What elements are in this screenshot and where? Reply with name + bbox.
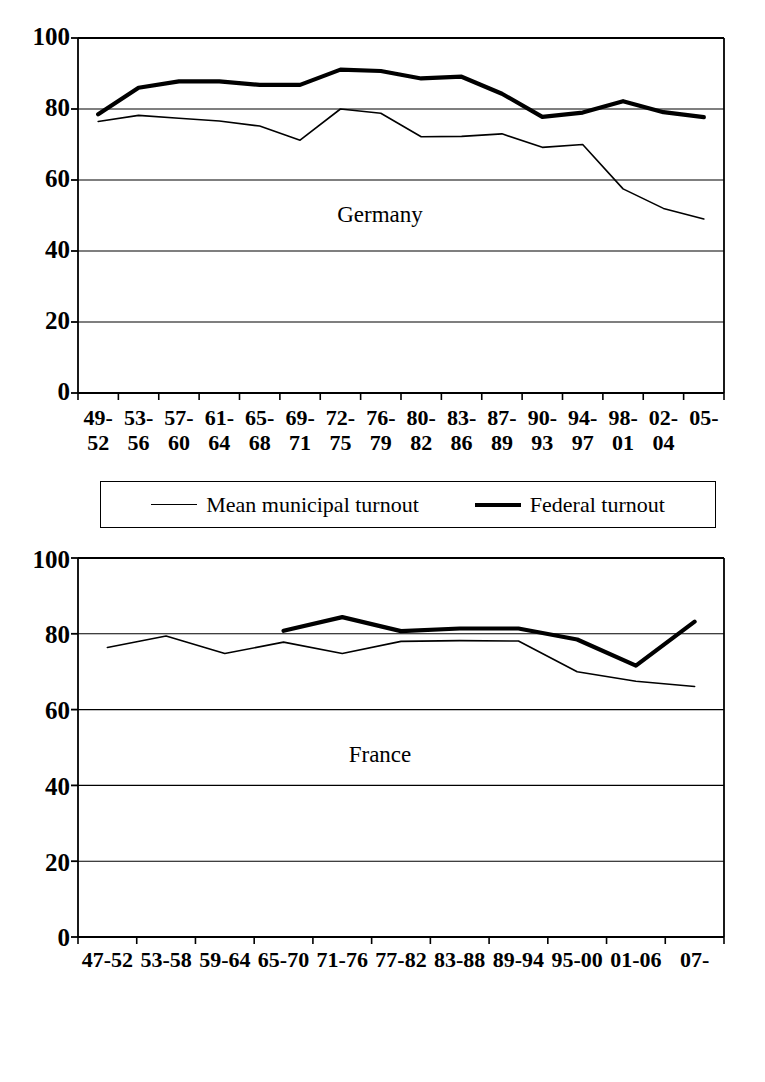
x-tick-label: 98- 01 [603,406,643,455]
y-tick-label: 0 [10,925,70,950]
y-tick-label: 60 [10,166,70,191]
x-tick-label: 65- 68 [240,406,280,455]
y-tick-label: 100 [10,24,70,49]
plot-annotation-germany: Germany [300,202,460,228]
plot-canvas-france [0,540,765,1010]
x-tick-label: 89-94 [489,948,548,973]
x-tick-label: 05- [684,406,724,431]
y-tick-label: 20 [10,308,70,333]
y-tick-label: 100 [10,547,70,572]
x-tick-label: 95-00 [548,948,607,973]
x-tick-label: 72- 75 [320,406,360,455]
x-tick-label: 49- 52 [78,406,118,455]
data-series-line-1 [107,636,694,686]
x-tick-label: 47-52 [78,948,137,973]
y-tick-label: 40 [10,237,70,262]
y-tick-label: 0 [10,379,70,404]
x-tick-label: 90- 93 [522,406,562,455]
legend-germany: Mean municipal turnout Federal turnout [100,481,716,528]
y-tick-label: 20 [10,850,70,875]
x-tick-label: 65-70 [254,948,313,973]
x-tick-label: 57- 60 [159,406,199,455]
x-tick-label: 53-58 [137,948,196,973]
x-tick-label: 87- 89 [482,406,522,455]
data-series-line-1 [98,70,704,118]
x-tick-label: 61- 64 [199,406,239,455]
x-tick-label: 02- 04 [643,406,683,455]
x-tick-label: 83- 86 [441,406,481,455]
y-tick-label: 80 [10,95,70,120]
plot-annotation-france: France [300,742,460,768]
y-tick-label: 60 [10,698,70,723]
legend-entry[interactable]: Mean municipal turnout [151,494,419,516]
x-tick-label: 77-82 [372,948,431,973]
legend-line-swatch-thin-icon [151,504,197,505]
y-tick-label: 40 [10,774,70,799]
x-tick-label: 07- [665,948,724,973]
legend-entry[interactable]: Federal turnout [475,494,665,516]
x-tick-label: 01-06 [607,948,666,973]
x-tick-label: 76- 79 [361,406,401,455]
x-tick-label: 53- 56 [118,406,158,455]
y-tick-label: 80 [10,622,70,647]
x-tick-label: 71-76 [313,948,372,973]
x-tick-label: 59-64 [195,948,254,973]
legend-label: Mean municipal turnout [206,494,419,516]
legend-label: Federal turnout [530,494,665,516]
x-tick-label: 94- 97 [563,406,603,455]
legend-line-swatch-thick-icon [475,503,521,507]
chart-figure-france: 100 80 60 40 20 0 47-5253-5859-6465-7071… [0,540,765,1082]
x-tick-label: 83-88 [430,948,489,973]
x-tick-label: 69- 71 [280,406,320,455]
x-tick-label: 80- 82 [401,406,441,455]
chart-figure-germany: 100 80 60 40 20 0 49- 5253- 5657- 6061- … [0,0,765,540]
